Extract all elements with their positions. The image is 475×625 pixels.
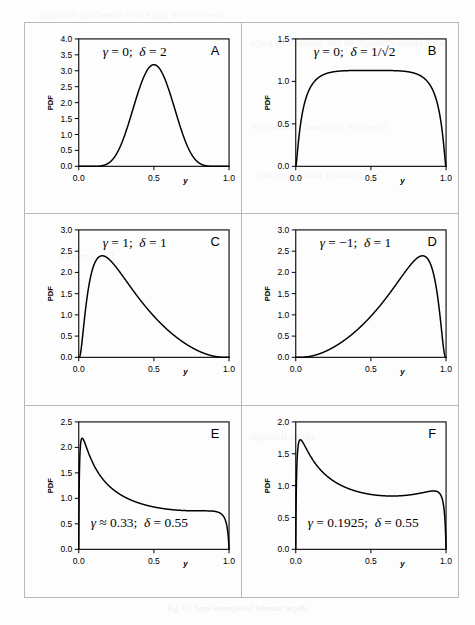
y-tick-label: 0.5 (60, 145, 72, 155)
x-tick-label: 0.5 (364, 172, 376, 182)
y-tick-label: 2.0 (277, 268, 289, 278)
ghost-text: the reverse page text bleeding through (40, 8, 224, 20)
y-tick-label: 1.0 (60, 310, 72, 320)
chart-panel-c: 0.00.51.01.52.02.53.00.00.51.0PDFyCγ = 1… (24, 213, 242, 406)
x-tick-label: 0.0 (72, 172, 84, 182)
y-tick-label: 1.5 (60, 468, 72, 478)
gamma-value: = 0.1925; (312, 515, 374, 530)
y-axis-title: PDF (262, 478, 271, 493)
x-tick-label: 1.0 (440, 172, 452, 182)
delta-value: = 1 (145, 235, 166, 250)
x-axis-title: y (399, 367, 405, 376)
x-axis-title: y (182, 175, 188, 184)
y-tick-label: 0.0 (60, 544, 72, 554)
panel-letter: B (427, 42, 436, 57)
y-tick-label: 1.0 (277, 310, 289, 320)
x-axis-title: y (399, 559, 405, 568)
pdf-curve (295, 256, 445, 358)
panel-letter: E (210, 426, 219, 441)
panel-grid: 0.00.51.01.52.02.53.03.54.00.00.51.0PDFy… (24, 22, 458, 597)
x-axis-title: y (182, 367, 188, 376)
y-tick-label: 0.5 (277, 331, 289, 341)
y-tick-label: 1.5 (277, 449, 289, 459)
y-tick-label: 1.5 (277, 34, 289, 44)
y-tick-label: 0.0 (277, 353, 289, 363)
y-tick-label: 4.0 (60, 34, 72, 44)
y-tick-label: 1.0 (60, 129, 72, 139)
panel-letter: F (428, 426, 436, 441)
gamma-value: ≈ 0.33; (95, 515, 143, 530)
y-tick-label: 2.0 (277, 417, 289, 427)
delta-value: = 2 (145, 43, 166, 58)
parameter-annotation: γ = 1; δ = 1 (102, 235, 166, 250)
x-tick-label: 0.0 (289, 364, 301, 374)
y-tick-label: 1.5 (277, 289, 289, 299)
x-tick-label: 0.0 (72, 556, 84, 566)
delta-value: = 0.55 (380, 515, 418, 530)
y-tick-label: 2.0 (60, 97, 72, 107)
chart-panel-e: 0.00.51.01.52.02.50.00.51.0PDFyEγ ≈ 0.33… (24, 405, 242, 598)
y-tick-label: 3.0 (277, 225, 289, 235)
y-tick-label: 1.5 (60, 113, 72, 123)
pdf-curve (295, 70, 445, 166)
x-tick-label: 1.0 (223, 556, 235, 566)
y-tick-label: 0.0 (277, 544, 289, 554)
panel-letter: A (210, 42, 219, 57)
figure-sheet: the reverse page text bleeding throughfa… (0, 0, 475, 625)
gamma-value: = 0; (318, 43, 349, 58)
x-tick-label: 1.0 (440, 364, 452, 374)
delta-value: = 0.55 (150, 515, 188, 530)
pdf-curve (295, 440, 445, 550)
chart-panel-f: 0.00.51.01.52.00.00.51.0PDFyFγ = 0.1925;… (241, 405, 459, 598)
pdf-curve (78, 438, 228, 549)
panel-letter: D (427, 234, 436, 249)
y-tick-label: 0.5 (277, 512, 289, 522)
delta-value: = 1/√2 (356, 43, 395, 58)
y-tick-label: 0.5 (277, 118, 289, 128)
y-tick-label: 0.5 (60, 519, 72, 529)
y-axis-title: PDF (262, 286, 271, 301)
x-tick-label: 0.5 (147, 364, 159, 374)
x-tick-label: 1.0 (223, 364, 235, 374)
x-tick-label: 0.5 (364, 556, 376, 566)
y-axis-title: PDF (45, 94, 54, 109)
x-tick-label: 0.5 (364, 364, 376, 374)
y-tick-label: 2.5 (277, 246, 289, 256)
y-tick-label: 2.0 (60, 442, 72, 452)
x-tick-label: 0.0 (289, 556, 301, 566)
y-axis-title: PDF (45, 478, 54, 493)
y-tick-label: 2.5 (60, 81, 72, 91)
y-tick-label: 0.5 (60, 331, 72, 341)
x-axis-title: y (182, 559, 188, 568)
figure-caption: Fig. D1 Some examples of Johnson Sʙ pdfs (0, 604, 475, 613)
y-tick-label: 2.0 (60, 268, 72, 278)
x-tick-label: 0.5 (147, 172, 159, 182)
y-tick-label: 2.5 (60, 246, 72, 256)
y-tick-label: 1.5 (60, 289, 72, 299)
delta-value: = 1 (370, 235, 391, 250)
panel-letter: C (210, 234, 219, 249)
x-tick-label: 0.0 (289, 172, 301, 182)
chart-panel-a: 0.00.51.01.52.02.53.03.54.00.00.51.0PDFy… (24, 22, 242, 215)
parameter-annotation: γ = 0; δ = 2 (102, 43, 166, 58)
y-tick-label: 0.0 (277, 161, 289, 171)
x-tick-label: 1.0 (223, 172, 235, 182)
y-tick-label: 2.5 (60, 417, 72, 427)
gamma-value: = 1; (107, 235, 138, 250)
x-tick-label: 0.0 (72, 364, 84, 374)
y-tick-label: 1.0 (60, 493, 72, 503)
y-tick-label: 3.0 (60, 65, 72, 75)
x-axis-title: y (399, 175, 405, 184)
x-tick-label: 0.5 (147, 556, 159, 566)
chart-panel-d: 0.00.51.01.52.02.53.00.00.51.0PDFyDγ = −… (241, 213, 459, 406)
parameter-annotation: γ = 0.1925; δ = 0.55 (307, 515, 418, 530)
y-tick-label: 0.0 (60, 161, 72, 171)
chart-panel-b: 0.00.51.01.50.00.51.0PDFyBγ = 0; δ = 1/√… (241, 22, 459, 215)
parameter-annotation: γ = 0; δ = 1/√2 (313, 43, 395, 58)
parameter-annotation: γ = −1; δ = 1 (319, 235, 391, 250)
y-tick-label: 1.0 (277, 76, 289, 86)
x-tick-label: 1.0 (440, 556, 452, 566)
pdf-curve (78, 64, 228, 166)
y-tick-label: 3.5 (60, 49, 72, 59)
gamma-value: = 0; (107, 43, 138, 58)
